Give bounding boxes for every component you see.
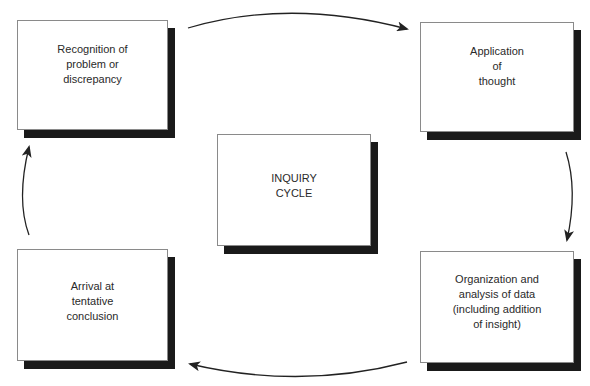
node-label: Recognition of problem or discrepancy [57, 42, 127, 87]
node-recognition: Recognition of problem or discrepancy [17, 20, 168, 130]
node-arrival: Arrival at tentative conclusion [17, 249, 168, 361]
node-inquiry-cycle-center: INQUIRY CYCLE [217, 134, 371, 246]
arrow-application-to-organization [566, 152, 572, 240]
center-label: INQUIRY CYCLE [271, 171, 317, 201]
node-label: Organization and analysis of data (inclu… [453, 272, 542, 332]
arrow-organization-to-arrival [190, 362, 407, 377]
arrow-arrival-to-recognition [23, 147, 30, 235]
node-organization: Organization and analysis of data (inclu… [420, 251, 574, 363]
arrow-recognition-to-application [188, 13, 407, 29]
node-application: Application of thought [420, 22, 574, 132]
node-label: Arrival at tentative conclusion [67, 279, 119, 324]
node-label: Application of thought [470, 44, 524, 89]
